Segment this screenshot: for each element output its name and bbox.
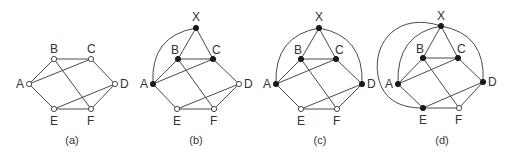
node-label-f: F (333, 114, 340, 128)
edge-e-d (423, 82, 483, 108)
node-b (420, 55, 425, 60)
panels: ABCDEF(a)XABCDEF(b)XABCDEF(c)XABCDEF(d) (16, 9, 497, 146)
node-e (51, 106, 56, 111)
node-f (88, 106, 93, 111)
node-label-a: A (140, 77, 148, 91)
graph-panel: XABCDEF(d) (377, 9, 497, 146)
edge-e-a (153, 84, 177, 109)
edge-d-f (337, 84, 362, 109)
panel-caption: (c) (314, 134, 327, 146)
node-label-c: C (87, 42, 96, 56)
edge-c-d (336, 59, 362, 84)
edge-d-f (214, 84, 239, 109)
edge-e-d (301, 84, 362, 109)
edge-x-c (441, 26, 458, 58)
node-x (316, 25, 321, 30)
panel-caption: (d) (435, 134, 448, 146)
edge-x-c (319, 28, 336, 59)
node-label-a: A (16, 77, 24, 91)
node-label-b: B (171, 43, 179, 57)
edge-e-a (276, 84, 301, 109)
graph-panel: XABCDEF(c) (263, 10, 376, 146)
graph-panel: XABCDEF(b) (140, 10, 253, 146)
node-d (359, 81, 364, 86)
node-d (480, 79, 485, 84)
node-d (112, 81, 117, 86)
node-label-f: F (87, 114, 94, 128)
node-c (455, 55, 460, 60)
node-d (236, 81, 241, 86)
edge-a-c (276, 59, 336, 84)
edge-x-c (196, 28, 213, 59)
edge-d-f (459, 82, 483, 108)
edge-a-b (153, 59, 178, 84)
edge-a-c (29, 59, 91, 84)
edge-a-c (398, 58, 458, 84)
edge-a-b (276, 59, 301, 84)
node-label-c: C (335, 43, 344, 57)
edge-d-f (91, 84, 115, 109)
edge-e-a (29, 84, 54, 109)
node-a (26, 81, 31, 86)
node-label-e: E (419, 113, 427, 127)
node-label-f: F (210, 114, 217, 128)
node-x (438, 23, 443, 28)
node-label-d: D (367, 77, 376, 91)
node-x (193, 25, 198, 30)
node-label-d: D (244, 77, 253, 91)
edge-c-d (91, 59, 115, 84)
node-label-b: B (416, 42, 424, 56)
node-label-c: C (212, 43, 221, 57)
node-label-c: C (457, 42, 466, 56)
node-e (174, 106, 179, 111)
edge-a-c (153, 59, 213, 84)
node-label-e: E (50, 114, 58, 128)
node-label-d: D (120, 77, 129, 91)
node-a (150, 81, 155, 86)
node-a (395, 81, 400, 86)
panel-caption: (a) (65, 134, 78, 146)
node-label-x: X (437, 9, 445, 23)
node-label-b: B (50, 42, 58, 56)
node-label-e: E (297, 114, 305, 128)
node-label-d: D (488, 75, 497, 89)
node-f (211, 106, 216, 111)
panel-caption: (b) (189, 134, 202, 146)
edge-e-d (177, 84, 239, 109)
node-label-x: X (192, 10, 200, 24)
node-label-a: A (385, 77, 393, 91)
edge-a-b (398, 58, 423, 84)
node-e (298, 106, 303, 111)
node-label-b: B (294, 43, 302, 57)
edge-c-d (458, 58, 483, 82)
edge-a-b (29, 59, 54, 84)
graph-panel: ABCDEF(a) (16, 42, 129, 146)
node-label-a: A (263, 77, 271, 91)
node-b (51, 56, 56, 61)
graph-figure: ABCDEF(a)XABCDEF(b)XABCDEF(c)XABCDEF(d) (0, 0, 506, 152)
node-c (333, 56, 338, 61)
node-a (273, 81, 278, 86)
node-e (420, 105, 425, 110)
node-b (298, 56, 303, 61)
node-b (175, 56, 180, 61)
node-f (334, 106, 339, 111)
node-c (210, 56, 215, 61)
node-f (456, 105, 461, 110)
edge-c-d (213, 59, 239, 84)
edge-e-d (54, 84, 115, 109)
node-label-f: F (455, 113, 462, 127)
node-label-e: E (173, 114, 181, 128)
node-c (88, 56, 93, 61)
node-label-x: X (315, 10, 323, 24)
